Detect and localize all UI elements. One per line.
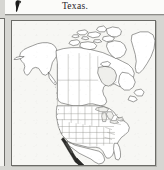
distribution-map-canvas (12, 21, 155, 165)
caption-label: Texas. (5, 0, 145, 13)
caption-strip: Texas. (5, 0, 164, 14)
arctic-island-small-b (94, 40, 102, 43)
north-america-map-svg (12, 21, 155, 165)
lake-michigan (102, 113, 107, 122)
horizontal-rule (5, 14, 164, 16)
page-sheet: Texas. (0, 0, 164, 170)
distribution-map-frame (11, 20, 156, 166)
adjacent-figure-crop (0, 18, 5, 166)
